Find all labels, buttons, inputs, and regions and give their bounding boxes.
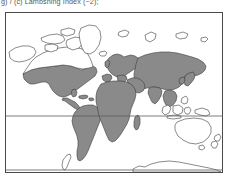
region-iceland-outline	[99, 51, 107, 56]
world-map	[5, 12, 223, 173]
region-hispaniola-highlight	[89, 98, 94, 101]
world-map-svg	[5, 12, 223, 173]
figure-caption: g) / (c) Lambshing Index (~2);	[1, 0, 211, 6]
figure-root: g) / (c) Lambshing Index (~2);	[0, 0, 235, 180]
region-florida-highlight	[71, 89, 77, 97]
